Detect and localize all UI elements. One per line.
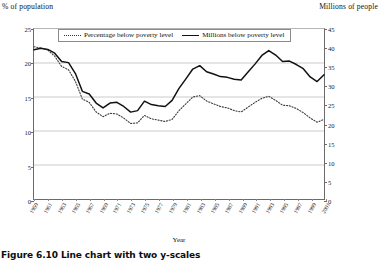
- x-tick-label: 1961: [42, 202, 53, 214]
- x-tick-mark: [34, 199, 35, 201]
- x-tick-mark: [312, 199, 313, 201]
- y-tick-mark-left: [31, 63, 34, 64]
- y-tick-mark-right: [324, 48, 327, 49]
- x-tick-mark: [298, 199, 299, 201]
- y-tick-mark-right: [324, 144, 327, 145]
- x-tick-label: 1987: [223, 202, 234, 214]
- x-tick-mark: [145, 199, 146, 201]
- x-tick-label: 1963: [56, 202, 67, 214]
- x-tick-mark: [117, 199, 118, 201]
- x-tick-mark: [62, 199, 63, 201]
- x-tick-label: 1969: [98, 202, 109, 214]
- x-tick-mark: [48, 199, 49, 201]
- x-tick-label: 2001: [321, 202, 332, 214]
- x-tick-mark: [173, 199, 174, 201]
- x-tick-label: 1981: [181, 202, 192, 214]
- x-tick-label: 1997: [293, 202, 304, 214]
- x-tick-label: 1973: [126, 202, 137, 214]
- y-tick-label-left: 15: [24, 94, 31, 101]
- x-tick-label: 1971: [112, 202, 123, 214]
- x-tick-mark: [90, 199, 91, 201]
- y-tick-label-right: 25: [328, 102, 335, 109]
- x-tick-label: 1977: [154, 202, 165, 214]
- legend-entry-percentage: Percentage below poverty level: [64, 32, 173, 39]
- x-tick-mark: [215, 199, 216, 201]
- y-tick-label-left: 25: [24, 26, 31, 33]
- y-tick-mark-right: [324, 125, 327, 126]
- legend-label-millions: Millions below poverty level: [202, 32, 284, 39]
- y-tick-mark-left: [31, 29, 34, 30]
- x-tick-label: 1975: [140, 202, 151, 214]
- legend-swatch-solid-icon: [182, 34, 199, 37]
- x-tick-mark: [326, 199, 327, 201]
- x-tick-mark: [256, 199, 257, 201]
- figure-caption: Figure 6.10 Line chart with two y-scales: [1, 250, 200, 260]
- x-tick-label: 1967: [84, 202, 95, 214]
- y-tick-mark-left: [31, 132, 34, 133]
- y-tick-label-left: 20: [24, 60, 31, 67]
- x-tick-mark: [201, 199, 202, 201]
- y-tick-label-right: 30: [328, 83, 335, 90]
- x-tick-label: 1979: [168, 202, 179, 214]
- y-tick-mark-right: [324, 163, 327, 164]
- x-tick-mark: [76, 199, 77, 201]
- x-tick-mark: [284, 199, 285, 201]
- y-tick-mark-right: [324, 29, 327, 30]
- plot-area: 0510152025051015202530354045195919611963…: [33, 28, 325, 200]
- x-tick-label: 1965: [70, 202, 81, 214]
- y-tick-mark-right: [324, 86, 327, 87]
- right-axis-title: Millions of people: [319, 2, 378, 11]
- x-tick-label: 1991: [251, 202, 262, 214]
- y-tick-label-left: 10: [24, 129, 31, 136]
- x-tick-label: 1983: [195, 202, 206, 214]
- x-axis-title: Year: [0, 236, 358, 244]
- chart-legend: Percentage below poverty level Millions …: [58, 29, 291, 42]
- x-tick-mark: [229, 199, 230, 201]
- legend-entry-millions: Millions below poverty level: [182, 32, 284, 39]
- legend-swatch-dotted-icon: [64, 34, 81, 37]
- x-tick-mark: [243, 199, 244, 201]
- x-tick-label: 1995: [279, 202, 290, 214]
- y-tick-mark-left: [31, 98, 34, 99]
- figure-container: % of population Millions of people 05101…: [0, 0, 381, 263]
- y-tick-label-right: 45: [328, 26, 335, 33]
- y-tick-mark-right: [324, 67, 327, 68]
- y-tick-label-right: 5: [328, 178, 331, 185]
- y-tick-label-right: 35: [328, 64, 335, 71]
- x-tick-mark: [187, 199, 188, 201]
- x-tick-mark: [131, 199, 132, 201]
- series-line-1: [34, 47, 324, 124]
- y-tick-label-right: 15: [328, 140, 335, 147]
- x-tick-mark: [104, 199, 105, 201]
- series-line-2: [34, 48, 324, 112]
- series-lines: [34, 29, 324, 199]
- y-tick-label-right: 40: [328, 45, 335, 52]
- x-tick-label: 1999: [307, 202, 318, 214]
- left-axis-title: % of population: [2, 2, 53, 11]
- x-tick-mark: [159, 199, 160, 201]
- y-tick-label-right: 10: [328, 159, 335, 166]
- x-tick-label: 1985: [209, 202, 220, 214]
- y-tick-mark-right: [324, 105, 327, 106]
- x-tick-label: 1993: [265, 202, 276, 214]
- x-tick-mark: [270, 199, 271, 201]
- y-tick-mark-left: [31, 167, 34, 168]
- y-tick-mark-right: [324, 182, 327, 183]
- y-tick-label-right: 20: [328, 121, 335, 128]
- x-tick-label: 1989: [237, 202, 248, 214]
- legend-label-percentage: Percentage below poverty level: [84, 32, 173, 39]
